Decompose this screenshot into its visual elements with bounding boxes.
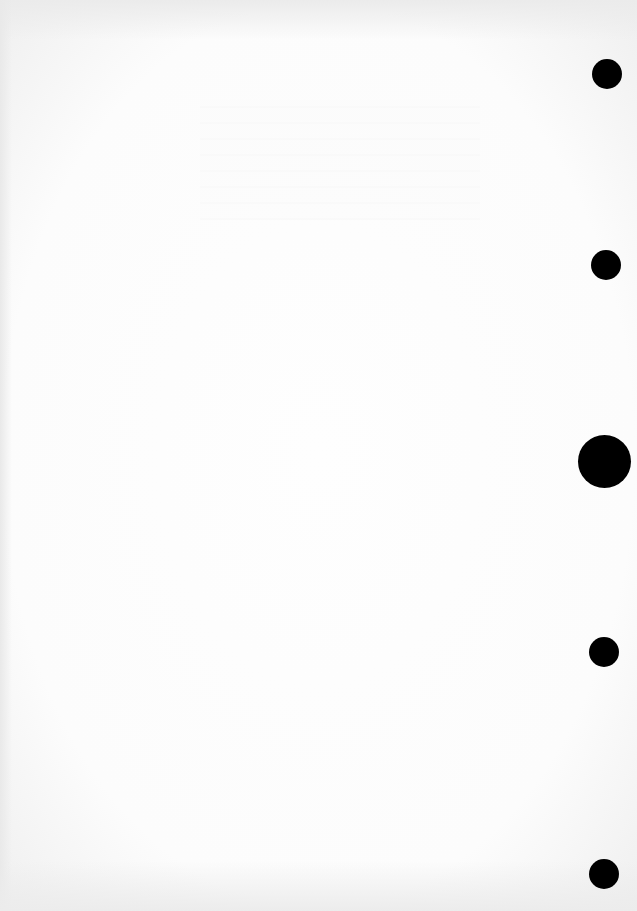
punch-hole xyxy=(592,59,622,89)
bleed-through-text xyxy=(200,100,480,220)
punch-hole xyxy=(578,435,631,488)
scan-shadow-bottom xyxy=(0,861,637,911)
scanned-page xyxy=(0,0,637,911)
scan-shadow-top xyxy=(0,0,637,40)
scan-shadow-left xyxy=(0,0,12,911)
punch-hole xyxy=(591,250,621,280)
punch-hole xyxy=(589,859,619,889)
punch-hole xyxy=(589,637,619,667)
